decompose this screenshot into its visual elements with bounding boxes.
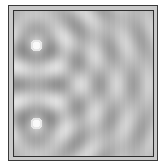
interference-pattern bbox=[14, 11, 153, 156]
interference-figure bbox=[0, 0, 163, 163]
wave-field bbox=[13, 10, 154, 157]
